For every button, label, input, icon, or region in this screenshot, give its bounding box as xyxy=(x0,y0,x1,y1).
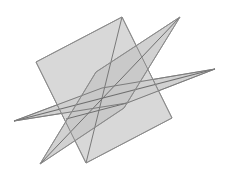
intersecting-planes-diagram xyxy=(0,0,229,177)
figure-container xyxy=(0,0,229,177)
